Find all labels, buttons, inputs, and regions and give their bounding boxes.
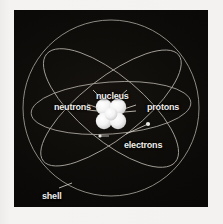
nucleus-cluster	[96, 99, 126, 129]
label-nucleus: nucleus	[96, 92, 129, 101]
label-protons: protons	[147, 103, 179, 112]
diagram-panel: nucleus neutrons protons electrons shell	[14, 10, 208, 207]
label-electrons: electrons	[124, 141, 162, 150]
leader-protons-lower	[124, 111, 136, 112]
label-neutrons: neutrons	[54, 103, 91, 112]
neutron-sphere-center	[105, 108, 118, 121]
atom-diagram-figure: nucleus neutrons protons electrons shell	[0, 0, 223, 224]
label-shell: shell	[42, 192, 62, 201]
